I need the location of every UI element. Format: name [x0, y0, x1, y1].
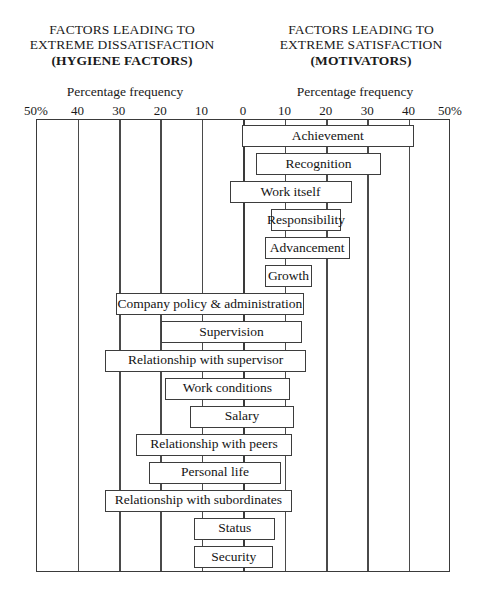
bar-company-policy-administration: Company policy & administration: [116, 293, 304, 315]
heading-hygiene: FACTORS LEADING TO EXTREME DISSATISFACTI…: [6, 22, 238, 68]
bar-responsibility: Responsibility: [271, 209, 341, 231]
x-tick-label: 50%: [430, 103, 470, 119]
herzberg-two-factor-chart: FACTORS LEADING TO EXTREME DISSATISFACTI…: [0, 0, 483, 594]
bar-security: Security: [194, 546, 273, 568]
bar-label: Recognition: [280, 156, 358, 172]
axis-caption-left: Percentage frequency: [20, 84, 230, 100]
bar-relationship-with-subordinates: Relationship with subordinates: [105, 490, 291, 512]
bar-label: Achievement: [286, 128, 370, 144]
bar-label: Relationship with subordinates: [109, 492, 288, 508]
heading-hygiene-line2: EXTREME DISSATISFACTION: [6, 37, 238, 52]
axis-caption-right: Percentage frequency: [250, 84, 460, 100]
bar-label: Work conditions: [177, 380, 278, 396]
bar-recognition: Recognition: [256, 153, 380, 175]
bar-label: Relationship with peers: [144, 436, 283, 452]
bar-personal-life: Personal life: [149, 462, 281, 484]
bar-label: Personal life: [175, 464, 255, 480]
chart-headings: FACTORS LEADING TO EXTREME DISSATISFACTI…: [0, 22, 483, 84]
x-tick-label: 30: [99, 103, 139, 119]
bar-work-conditions: Work conditions: [165, 378, 289, 400]
bar-label: Security: [205, 549, 262, 565]
heading-motivators-line3: (MOTIVATORS): [245, 53, 477, 68]
x-tick-label: 40: [57, 103, 97, 119]
bar-relationship-with-peers: Relationship with peers: [136, 434, 291, 456]
plot-area: AchievementRecognitionWork itselfRespons…: [36, 119, 450, 572]
heading-motivators-line2: EXTREME SATISFACTION: [245, 37, 477, 52]
bar-growth: Growth: [265, 265, 313, 287]
x-tick-label: 30: [347, 103, 387, 119]
x-tick-label: 10: [182, 103, 222, 119]
x-tick-label: 40: [389, 103, 429, 119]
x-tick-label: 50%: [16, 103, 56, 119]
bar-label: Relationship with supervisor: [122, 352, 289, 368]
bar-label: Work itself: [255, 184, 327, 200]
bar-label: Company policy & administration: [111, 296, 308, 312]
bar-label: Supervision: [193, 324, 270, 340]
bar-supervision: Supervision: [161, 321, 302, 343]
bar-advancement: Advancement: [265, 237, 350, 259]
bar-relationship-with-supervisor: Relationship with supervisor: [105, 350, 306, 372]
x-tick-label: 0: [223, 103, 263, 119]
heading-hygiene-line3: (HYGIENE FACTORS): [6, 53, 238, 68]
bar-label: Advancement: [264, 240, 351, 256]
heading-motivators-line1: FACTORS LEADING TO: [245, 22, 477, 37]
bar-salary: Salary: [190, 406, 294, 428]
bar-work-itself: Work itself: [230, 181, 352, 203]
heading-hygiene-line1: FACTORS LEADING TO: [6, 22, 238, 37]
bar-label: Growth: [262, 268, 315, 284]
x-axis-tick-labels: 50%4030201001020304050%: [0, 103, 483, 119]
bar-label: Responsibility: [261, 212, 351, 228]
heading-motivators: FACTORS LEADING TO EXTREME SATISFACTION …: [245, 22, 477, 68]
x-tick-label: 20: [306, 103, 346, 119]
x-tick-label: 20: [140, 103, 180, 119]
bar-status: Status: [194, 518, 275, 540]
bar-achievement: Achievement: [242, 125, 414, 147]
bar-label: Salary: [219, 408, 266, 424]
bar-series: AchievementRecognitionWork itselfRespons…: [37, 120, 449, 571]
bar-label: Status: [212, 520, 257, 536]
x-tick-label: 10: [264, 103, 304, 119]
